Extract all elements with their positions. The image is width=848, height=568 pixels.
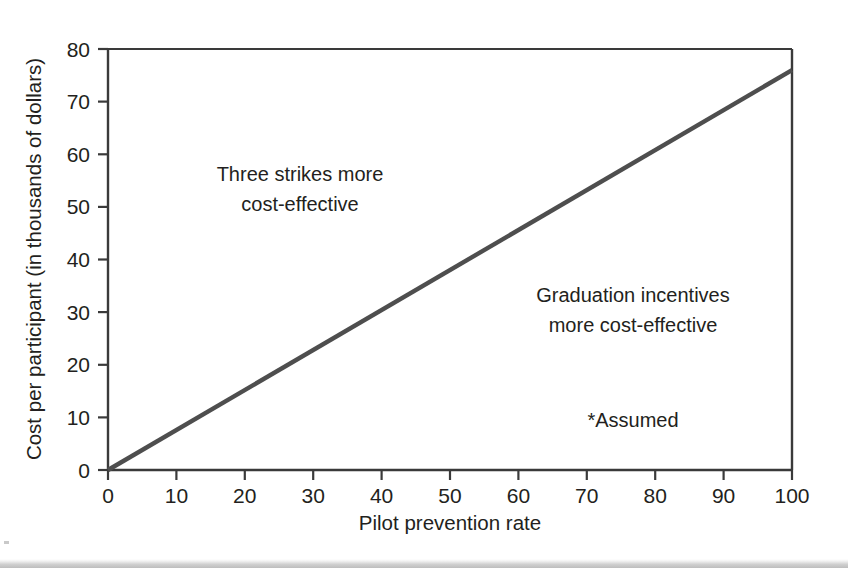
data-series-break-even-line: [108, 70, 792, 470]
x-tick-label: 60: [507, 484, 530, 507]
x-tick-label: 10: [165, 484, 188, 507]
y-tick-label: 0: [78, 459, 90, 482]
x-tick-label: 100: [774, 484, 809, 507]
y-tick-label: 20: [67, 353, 90, 376]
x-tick-labels: 0 10 20 30 40 50 60 70 80 90 100: [102, 484, 809, 507]
x-tick-label: 20: [233, 484, 256, 507]
annotation-graduation-incentives: Graduation incentives more cost-effectiv…: [536, 284, 729, 336]
x-tick-label: 0: [102, 484, 114, 507]
y-axis-ticks: [98, 49, 108, 470]
y-tick-label: 80: [67, 38, 90, 61]
annotation-graduation-line2: more cost-effective: [549, 314, 718, 336]
assumed-footnote: *Assumed: [587, 409, 678, 431]
x-tick-label: 30: [302, 484, 325, 507]
annotation-three-strikes-line2: cost-effective: [241, 193, 358, 215]
y-axis-title: Cost per participant (in thousands of do…: [22, 58, 45, 460]
y-tick-label: 50: [67, 195, 90, 218]
x-tick-label: 90: [712, 484, 735, 507]
y-tick-label: 10: [67, 406, 90, 429]
x-tick-label: 70: [575, 484, 598, 507]
y-tick-label: 40: [67, 248, 90, 271]
x-tick-label: 80: [644, 484, 667, 507]
x-tick-label: 50: [438, 484, 461, 507]
y-tick-label: 70: [67, 90, 90, 113]
page-bottom-band: [0, 559, 848, 568]
y-tick-label: 60: [67, 143, 90, 166]
x-axis-ticks: [108, 470, 792, 480]
annotation-three-strikes-line1: Three strikes more: [217, 163, 384, 185]
annotation-graduation-line1: Graduation incentives: [536, 284, 729, 306]
annotation-three-strikes: Three strikes more cost-effective: [217, 163, 384, 215]
y-tick-labels: 0 10 20 30 40 50 60 70 80: [67, 38, 90, 482]
axis-frame: [108, 49, 792, 470]
x-tick-label: 40: [370, 484, 393, 507]
y-tick-label: 30: [67, 301, 90, 324]
x-axis-title: Pilot prevention rate: [359, 511, 541, 534]
chart-figure: 0 10 20 30 40 50 60 70 80 0 10 20 30 40 …: [0, 0, 848, 568]
page-edge-mark: [4, 541, 9, 544]
line-chart: 0 10 20 30 40 50 60 70 80 0 10 20 30 40 …: [0, 0, 848, 568]
